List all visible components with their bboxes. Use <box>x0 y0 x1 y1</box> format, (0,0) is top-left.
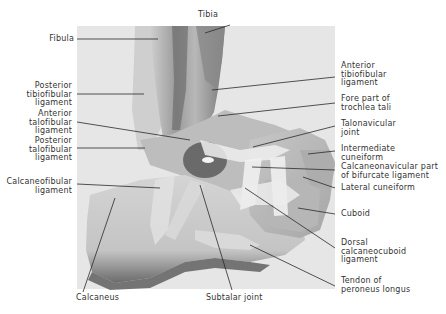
label-calcaneonavicular-part-bifurcate-ligament: Calcaneonavicular part of bifurcate liga… <box>341 163 438 180</box>
label-tibia: Tibia <box>198 11 218 20</box>
label-anterior-tibiofibular-ligament: Anterior tibiofibular ligament <box>341 62 387 88</box>
label-dorsal-calcaneocuboid-ligament: Dorsal calcaneocuboid ligament <box>341 239 406 265</box>
label-fibula: Fibula <box>49 35 74 44</box>
label-posterior-tibiofibular-ligament: Posterior tibiofibular ligament <box>26 82 72 108</box>
label-calcaneus: Calcaneus <box>76 294 119 303</box>
label-subtalar-joint: Subtalar joint <box>206 294 263 303</box>
label-anterior-talofibular-ligament: Anterior talofibular ligament <box>29 110 72 136</box>
label-posterior-talofibular-ligament: Posterior talofibular ligament <box>29 137 72 163</box>
label-talonavicular-joint: Talonavicular joint <box>341 120 396 137</box>
label-calcaneofibular-ligament: Calcaneofibular ligament <box>7 178 73 195</box>
anatomy-figure: Tibia Fibula Posterior tibiofibular liga… <box>0 0 446 314</box>
label-intermediate-cuneiform: Intermediate cuneiform <box>341 145 395 162</box>
label-cuboid: Cuboid <box>341 210 370 219</box>
label-lateral-cuneiform: Lateral cuneiform <box>341 184 415 193</box>
label-fore-part-trochlea-tali: Fore part of trochlea tali <box>341 95 391 112</box>
label-tendon-peroneus-longus: Tendon of peroneus longus <box>341 277 410 294</box>
